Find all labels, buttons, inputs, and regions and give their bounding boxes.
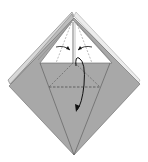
origami-diagram — [0, 0, 148, 162]
